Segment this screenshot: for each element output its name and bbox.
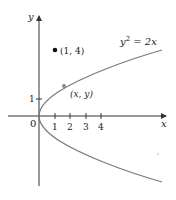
x-tick-label-4: 4 [98, 122, 104, 132]
y-axis-label: y [27, 11, 34, 22]
x-axis-label: x [161, 118, 167, 129]
y-tick-label-1: 1 [29, 94, 35, 104]
equation-label: y2 = 2x [119, 35, 157, 47]
x-tick-label-3: 3 [83, 122, 89, 132]
x-tick-label-1: 1 [52, 122, 58, 132]
x-tick-label-2: 2 [67, 122, 73, 132]
equation-rhs: = 2x [130, 36, 157, 47]
point-x-y [62, 84, 66, 88]
point-x-y-label: (x, y) [70, 89, 93, 99]
parabola-diagram: y x 0 1 2 3 4 1 (1, 4) (x, y) y2 = 2x [0, 0, 176, 200]
stray-speck [157, 153, 159, 155]
point-1-4-label: (1, 4) [60, 46, 84, 56]
point-1-4 [53, 48, 58, 53]
origin-label: 0 [30, 118, 36, 129]
